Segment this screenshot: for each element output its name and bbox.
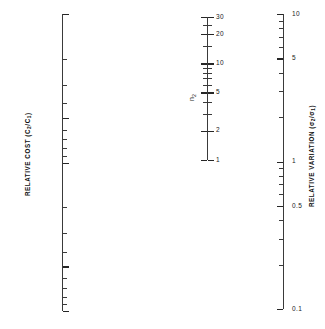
axis-tick-label: 5 [216,89,220,96]
axis-tick [279,265,283,266]
axis-tick [208,114,212,115]
axis-tick [279,117,283,118]
axis-tick [277,14,283,15]
axis-tick [201,160,207,161]
axis-tick [203,46,207,47]
axis-tick [279,239,283,240]
axis-tick-label: 0.5 [292,203,302,210]
axis-tick [203,78,207,79]
axis-tick-label: 2 [216,127,220,134]
axis-line-n2 [207,17,208,160]
axis-tick [63,130,67,131]
axis-tick [63,266,69,267]
axis-tick-label: 10 [292,11,300,18]
axis-tick [277,58,283,59]
axis-tick [279,176,283,177]
axis-tick [63,14,69,15]
axis-tick [208,85,212,86]
axis-tick-label: 5 [292,55,296,62]
axis-tick [279,21,283,22]
axis-tick [63,59,67,60]
axis-tick [63,103,67,104]
axis-tick [208,92,214,93]
axis-tick [203,73,207,74]
axis-tick [203,25,207,26]
axis-line-relative-variation [283,14,284,309]
axis-tick [63,163,69,164]
axis-tick [201,131,207,132]
axis-tick [208,25,212,26]
axis-tick [279,220,283,221]
axis-tick [277,309,283,310]
axis-title-n2: n2 [188,94,195,101]
nomogram-figure: 0.10.51510 RELATIVE COST (C2/C1) 3020105… [0,0,325,329]
axis-tick-label: 30 [216,14,224,21]
axis-tick [208,63,214,64]
axis-tick [208,73,212,74]
axis-tick [63,207,67,208]
axis-title-relative-cost: RELATIVE COST (C2/C1) [24,112,31,196]
axis-tick [63,156,67,157]
axis-tick-label: 1 [216,157,220,164]
axis-tick [279,184,283,185]
axis-tick [208,17,214,18]
axis-tick [63,278,67,279]
axis-tick [277,162,283,163]
axis-tick [277,206,283,207]
axis-tick [208,160,214,161]
axis-tick [203,102,207,103]
axis-tick [63,311,69,312]
axis-tick [201,63,207,64]
axis-tick [279,47,283,48]
axis-tick [208,131,214,132]
axis-tick [208,78,212,79]
axis-tick [279,28,283,29]
axis-tick [203,68,207,69]
axis-tick [208,34,214,35]
axis-tick [279,91,283,92]
axis-tick [201,92,207,93]
axis-tick [63,118,69,119]
axis-tick [279,73,283,74]
axis-tick [279,168,283,169]
axis-tick [63,148,67,149]
axis-tick [63,139,67,140]
axis-tick [201,34,207,35]
axis-tick [63,233,67,234]
axis-tick-label: 0.1 [292,306,302,313]
axis-tick [279,37,283,38]
axis-tick [63,288,67,289]
axis-title-relative-variation: RELATIVE VARIATION (σ2/σ1) [308,105,315,207]
axis-tick [279,194,283,195]
axis-tick [208,46,212,47]
axis-tick [63,85,67,86]
axis-tick [203,114,207,115]
axis-tick [208,68,212,69]
axis-tick [63,297,67,298]
axis-tick [201,17,207,18]
axis-tick-label: 1 [292,158,296,165]
axis-tick [63,252,67,253]
axis-tick [203,85,207,86]
axis-tick-label: 20 [216,31,224,38]
axis-tick-label: 10 [216,60,224,67]
axis-tick [63,304,67,305]
axis-tick [208,102,212,103]
